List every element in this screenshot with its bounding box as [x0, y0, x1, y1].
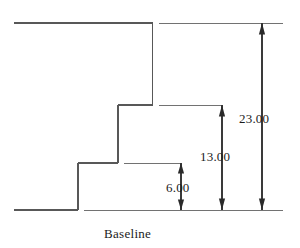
dimension-13-arrow-bottom [219, 199, 225, 211]
part-outline [14, 23, 153, 210]
dimension-23-label: 23.00 [239, 112, 269, 125]
dimension-13-arrow-top [219, 105, 225, 117]
dimension-6-arrow-top [178, 163, 184, 174]
dimension-23-arrow-bottom [259, 199, 265, 211]
dimension-6-arrow-bottom [178, 200, 184, 211]
dimension-6-label: 6.00 [166, 181, 190, 194]
dimension-23-arrow-top [259, 23, 265, 35]
dimension-13-label: 13.00 [200, 150, 230, 163]
dimension-drawing-canvas: 23.00 13.00 6.00 Baseline [0, 0, 300, 248]
baseline-label: Baseline [104, 227, 151, 240]
